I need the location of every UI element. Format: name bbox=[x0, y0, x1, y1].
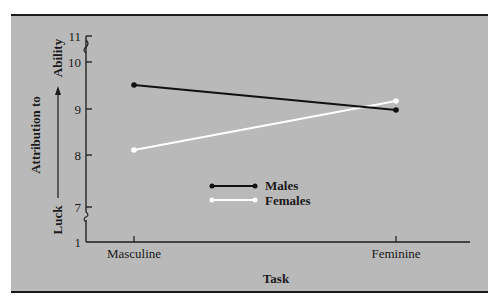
y-axis-title-group: Attribution to Luck Ability bbox=[28, 38, 65, 234]
y-axis-title: Attribution to bbox=[28, 96, 43, 174]
data-point-females-feminine bbox=[393, 98, 399, 104]
y-tick-labels: 11 10 9 8 7 1 bbox=[68, 29, 82, 250]
y-tick-11: 11 bbox=[68, 29, 81, 44]
x-axis-title: Task bbox=[263, 271, 290, 286]
data-point-males-masculine bbox=[131, 82, 137, 88]
x-category-feminine: Feminine bbox=[371, 246, 420, 261]
y-tick-1: 1 bbox=[75, 235, 82, 250]
x-axis bbox=[86, 236, 470, 242]
y-axis bbox=[84, 36, 92, 242]
legend-females: Females bbox=[265, 193, 310, 208]
x-category-masculine: Masculine bbox=[107, 246, 161, 261]
data-point-females-masculine bbox=[131, 147, 137, 153]
arrow-up-icon bbox=[55, 86, 61, 95]
y-tick-10: 10 bbox=[68, 55, 81, 70]
y-axis-high-label: Ability bbox=[50, 38, 65, 77]
data-point-males-feminine bbox=[393, 107, 399, 113]
legend-males: Males bbox=[265, 178, 298, 193]
y-tick-8: 8 bbox=[75, 148, 82, 163]
legend: Males Females bbox=[210, 178, 311, 208]
line-chart: 11 10 9 8 7 1 Masculine Feminine Task At… bbox=[0, 0, 499, 305]
y-tick-9: 9 bbox=[75, 102, 82, 117]
y-tick-7: 7 bbox=[75, 200, 82, 215]
y-axis-low-label: Luck bbox=[50, 205, 65, 235]
